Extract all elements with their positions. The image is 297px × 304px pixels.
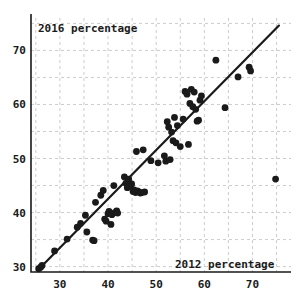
plot-canvas: 3040506070 3040506070 2016 percentage 20… xyxy=(0,0,297,304)
data-point xyxy=(83,229,90,236)
scatter-plot-chart: 3040506070 3040506070 2016 percentage 20… xyxy=(0,0,297,304)
data-point xyxy=(39,262,46,269)
data-point xyxy=(110,182,117,189)
data-point xyxy=(82,212,89,219)
data-point xyxy=(212,57,219,64)
x-tick-labels: 3040506070 xyxy=(53,278,259,291)
data-point xyxy=(177,143,184,150)
data-point xyxy=(167,156,174,163)
data-point xyxy=(247,68,254,75)
data-point xyxy=(185,141,192,148)
regression-line xyxy=(38,26,279,270)
x-tick-label: 70 xyxy=(246,278,259,291)
x-tick-label: 30 xyxy=(53,278,66,291)
data-point xyxy=(168,129,175,136)
y-tick-label: 70 xyxy=(13,44,26,57)
data-point xyxy=(77,220,84,227)
data-point xyxy=(192,106,199,113)
data-point xyxy=(155,159,162,166)
data-point xyxy=(171,114,178,121)
trend-line-layer xyxy=(38,26,279,270)
y-axis-label: 2016 percentage xyxy=(38,22,138,35)
x-axis-label: 2012 percentage xyxy=(175,258,275,271)
y-tick-label: 40 xyxy=(13,207,26,220)
y-tick-labels: 3040506070 xyxy=(13,44,26,273)
x-tick-label: 50 xyxy=(150,278,163,291)
data-point xyxy=(51,248,58,255)
data-point xyxy=(180,116,187,123)
data-point xyxy=(222,104,229,111)
data-point xyxy=(64,236,71,243)
data-point xyxy=(191,89,198,96)
y-tick-label: 60 xyxy=(13,98,26,111)
data-point xyxy=(195,117,202,124)
data-point xyxy=(92,199,99,206)
data-point xyxy=(147,157,154,164)
data-point xyxy=(133,148,140,155)
data-point xyxy=(91,237,98,244)
x-tick-label: 60 xyxy=(198,278,211,291)
data-point xyxy=(128,181,135,188)
data-point xyxy=(140,146,147,153)
x-tick-label: 40 xyxy=(101,278,114,291)
data-point xyxy=(272,176,279,183)
data-point xyxy=(174,122,181,129)
data-point xyxy=(114,210,121,217)
data-point xyxy=(108,221,115,228)
y-tick-label: 30 xyxy=(13,261,26,274)
data-point xyxy=(235,74,242,81)
data-point xyxy=(141,189,148,196)
data-point xyxy=(198,92,205,99)
data-point xyxy=(100,187,107,194)
y-tick-label: 50 xyxy=(13,153,26,166)
